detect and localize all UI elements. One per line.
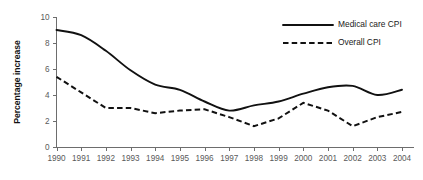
y-tick-label: 2 [45,117,50,126]
line-chart: 0246810 19901991199219931994199519961997… [0,0,423,180]
x-tick-label: 2003 [368,154,387,163]
x-tick-label: 1997 [220,154,239,163]
y-tick-label: 10 [40,13,50,22]
x-tick-label: 1998 [245,154,264,163]
y-tick-label: 0 [45,143,50,152]
legend-label-2: Overall CPI [338,37,381,47]
x-tick-label: 2002 [344,154,363,163]
chart-container: 0246810 19901991199219931994199519961997… [0,0,423,180]
series-line-2 [57,77,403,126]
x-tick-label: 1993 [121,154,140,163]
x-tick-label: 1991 [72,154,91,163]
y-tick-label: 4 [45,91,50,100]
x-tick-label: 1996 [195,154,214,163]
chart-legend: Medical care CPIOverall CPI [283,19,402,47]
y-axis-title: Percentage increase [12,40,22,124]
legend-label-1: Medical care CPI [338,19,402,29]
x-tick-label: 2000 [294,154,313,163]
x-tick-label: 2001 [319,154,338,163]
x-tick-label: 1995 [171,154,190,163]
x-tick-label: 1992 [97,154,116,163]
x-tick-label: 1990 [47,154,66,163]
y-axis-ticks: 0246810 [40,13,56,152]
y-tick-label: 6 [45,65,50,74]
x-tick-label: 2004 [393,154,412,163]
y-tick-label: 8 [45,39,50,48]
x-axis-ticks: 1990199119921993199419951996199719981999… [47,147,411,163]
x-tick-label: 1994 [146,154,165,163]
x-tick-label: 1999 [269,154,288,163]
